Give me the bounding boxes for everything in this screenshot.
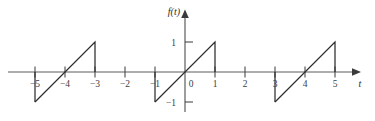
x-label-minus3: −3 xyxy=(90,79,100,89)
y-axis-group xyxy=(181,10,189,113)
sawtooth-figure: −5 −4 −3 −2 −1 0 1 2 3 4 5 1 −1 f(t) t xyxy=(0,0,375,121)
x-tick-labels: −5 −4 −3 −2 −1 0 1 2 3 4 5 xyxy=(30,79,338,89)
x-label-plus2: 2 xyxy=(243,79,248,89)
y-label-minus1: −1 xyxy=(166,98,176,108)
y-label-plus1: 1 xyxy=(171,38,176,48)
x-label-minus1: −1 xyxy=(150,79,160,89)
x-label-zero: 0 xyxy=(189,79,194,89)
x-axis-arrowhead xyxy=(352,68,361,76)
x-axis-label: t xyxy=(359,78,362,89)
y-axis-arrowhead xyxy=(181,10,189,19)
sawtooth-plot-svg: −5 −4 −3 −2 −1 0 1 2 3 4 5 1 −1 f(t) t xyxy=(0,0,375,121)
x-label-minus2: −2 xyxy=(120,79,130,89)
x-label-minus5: −5 xyxy=(30,79,40,89)
x-label-plus5: 5 xyxy=(333,79,338,89)
x-label-plus3: 3 xyxy=(273,79,278,89)
y-axis-label: f(t) xyxy=(168,6,181,18)
x-label-minus4: −4 xyxy=(60,79,70,89)
x-label-plus1: 1 xyxy=(213,79,218,89)
x-label-plus4: 4 xyxy=(303,79,308,89)
